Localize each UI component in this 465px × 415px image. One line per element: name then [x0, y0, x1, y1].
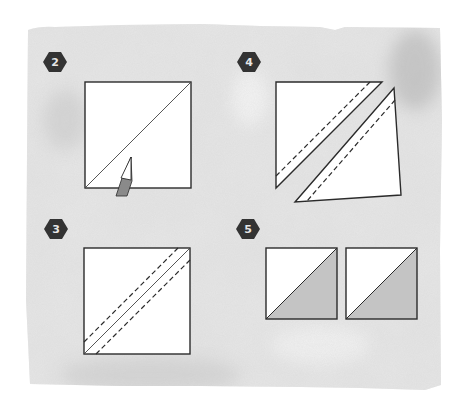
hst-unit-1: [266, 248, 337, 319]
step-number: 2: [51, 56, 59, 69]
step-number: 3: [52, 223, 60, 236]
step-number: 5: [244, 223, 252, 236]
step-number: 4: [245, 56, 253, 69]
quilt-diagram: 2 4 3: [0, 0, 465, 415]
hst-unit-2: [346, 248, 417, 319]
